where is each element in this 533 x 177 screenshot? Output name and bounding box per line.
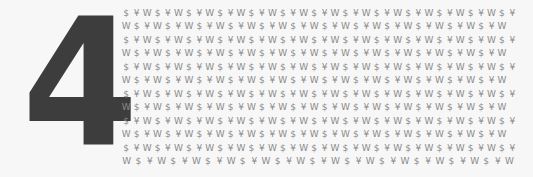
- pattern-glyph: ¥: [173, 74, 183, 87]
- pattern-glyph: W: [267, 61, 277, 74]
- pattern-glyph: ¥: [257, 88, 267, 101]
- pattern-glyph: ¥: [288, 34, 298, 47]
- pattern-glyph: ¥: [486, 20, 496, 33]
- pattern-glyph: ¥: [424, 74, 434, 87]
- pattern-glyph: $: [152, 61, 162, 74]
- pattern-glyph: ¥: [486, 74, 496, 87]
- pattern-glyph: W: [424, 7, 434, 20]
- pattern-glyph: $: [215, 61, 225, 74]
- pattern-glyph: $: [351, 47, 361, 60]
- pattern-glyph: $: [121, 88, 131, 101]
- pattern-glyph: W: [142, 7, 152, 20]
- pattern-glyph: ¥: [194, 61, 204, 74]
- pattern-glyph: ¥: [392, 47, 402, 60]
- pattern-glyph: W: [403, 47, 413, 60]
- pattern-glyph: ¥: [413, 88, 423, 101]
- pattern-glyph: W: [121, 128, 131, 141]
- pattern-glyph: $: [340, 7, 350, 20]
- pattern-glyph: $: [434, 34, 444, 47]
- pattern-glyph: $: [184, 61, 194, 74]
- pattern-glyph: $: [272, 155, 284, 168]
- pattern-glyph: $: [163, 101, 173, 114]
- pattern-glyph: W: [372, 128, 382, 141]
- pattern-glyph: $: [257, 20, 267, 33]
- pattern-glyph: ¥: [351, 115, 361, 128]
- pattern-glyph: ¥: [457, 155, 469, 168]
- pattern-glyph: $: [194, 47, 204, 60]
- pattern-glyph: W: [309, 20, 319, 33]
- pattern-glyph: W: [330, 88, 340, 101]
- pattern-glyph: W: [465, 101, 475, 114]
- pattern-glyph: $: [445, 20, 455, 33]
- pattern-glyph: $: [225, 20, 235, 33]
- pattern-glyph: ¥: [131, 7, 141, 20]
- pattern-glyph: $: [225, 101, 235, 114]
- pattern-glyph: W: [246, 74, 256, 87]
- pattern-glyph: $: [246, 115, 256, 128]
- pattern-glyph: W: [497, 74, 507, 87]
- pattern-glyph: ¥: [257, 61, 267, 74]
- pattern-glyph: ¥: [318, 155, 330, 168]
- pattern-glyph: $: [309, 34, 319, 47]
- pattern-glyph: $: [372, 7, 382, 20]
- pattern-glyph: ¥: [225, 7, 235, 20]
- pattern-glyph: ¥: [173, 47, 183, 60]
- pattern-glyph: W: [330, 155, 342, 168]
- pattern-glyph: $: [497, 34, 507, 47]
- pattern-glyph: $: [215, 142, 225, 155]
- pattern-glyph: $: [246, 142, 256, 155]
- pattern-glyph: W: [361, 142, 371, 155]
- pattern-glyph: $: [121, 142, 131, 155]
- pattern-glyph: $: [476, 101, 486, 114]
- pattern-glyph: ¥: [330, 47, 340, 60]
- pattern-glyph: ¥: [351, 7, 361, 20]
- pattern-glyph: ¥: [257, 142, 267, 155]
- pattern-glyph: W: [184, 20, 194, 33]
- pattern-glyph: $: [133, 155, 145, 168]
- pattern-glyph: W: [455, 115, 465, 128]
- pattern-glyph: ¥: [445, 34, 455, 47]
- pattern-glyph: W: [236, 88, 246, 101]
- pattern-glyph: $: [351, 20, 361, 33]
- pattern-glyph: $: [288, 128, 298, 141]
- pattern-glyph: W: [278, 20, 288, 33]
- pattern-glyph: $: [215, 115, 225, 128]
- pattern-glyph: ¥: [267, 128, 277, 141]
- pattern-glyph: $: [413, 47, 423, 60]
- pattern-glyph: W: [215, 101, 225, 114]
- pattern-glyph: $: [465, 142, 475, 155]
- pattern-glyph: ¥: [163, 88, 173, 101]
- pattern-glyph: $: [497, 88, 507, 101]
- pattern-glyph: W: [455, 142, 465, 155]
- pattern-glyph: W: [309, 74, 319, 87]
- pattern-row: W$¥W$¥W$¥W$¥W$¥W$¥W$¥W$¥W$¥W$¥W$¥W$¥W: [121, 128, 507, 141]
- pattern-glyph: $: [121, 7, 131, 20]
- pattern-glyph: $: [131, 101, 141, 114]
- pattern-glyph: $: [340, 142, 350, 155]
- pattern-glyph: ¥: [298, 47, 308, 60]
- pattern-glyph: $: [246, 61, 256, 74]
- pattern-glyph: W: [173, 88, 183, 101]
- pattern-glyph: W: [173, 7, 183, 20]
- pattern-glyph: $: [307, 155, 319, 168]
- pattern-glyph: $: [382, 20, 392, 33]
- pattern-glyph: W: [497, 20, 507, 33]
- pattern-glyph: $: [445, 101, 455, 114]
- pattern-glyph: $: [413, 101, 423, 114]
- pattern-glyph: W: [267, 7, 277, 20]
- pattern-row: $¥W$¥W$¥W$¥W$¥W$¥W$¥W$¥W$¥W$¥W$¥W$¥W$¥: [121, 7, 518, 20]
- pattern-glyph: W: [152, 47, 162, 60]
- pattern-glyph: W: [340, 20, 350, 33]
- pattern-glyph: W: [142, 88, 152, 101]
- pattern-glyph: ¥: [455, 101, 465, 114]
- pattern-glyph: W: [267, 115, 277, 128]
- pattern-glyph: $: [163, 20, 173, 33]
- pattern-glyph: ¥: [173, 128, 183, 141]
- pattern-glyph: $: [278, 34, 288, 47]
- pattern-glyph: $: [497, 142, 507, 155]
- pattern-glyph: $: [351, 74, 361, 87]
- pattern-glyph: ¥: [163, 142, 173, 155]
- pattern-glyph: W: [278, 74, 288, 87]
- pattern-glyph: $: [131, 20, 141, 33]
- pattern-row: W$¥W$¥W$¥W$¥W$¥W$¥W$¥W$¥W$¥W$¥W$¥W$¥W: [121, 101, 507, 114]
